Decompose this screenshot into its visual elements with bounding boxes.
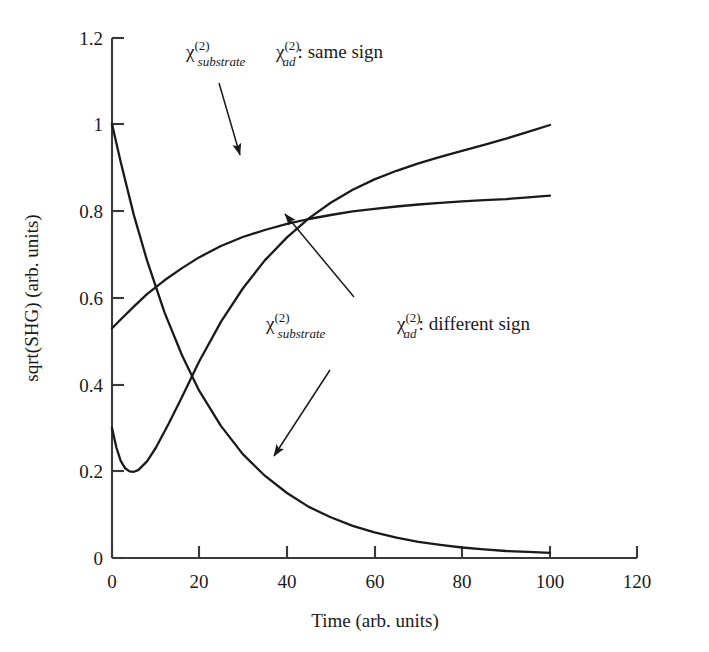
y-tick-label: 0.6 (79, 288, 103, 309)
x-axis-title: Time (arb. units) (311, 610, 439, 632)
x-tick-label: 40 (278, 571, 297, 592)
y-tick-label: 0.4 (79, 375, 103, 396)
x-tick-label: 120 (623, 571, 652, 592)
y-tick-label: 0 (94, 548, 104, 569)
x-tick-label: 60 (366, 571, 385, 592)
y-tick-label: 0.2 (79, 461, 103, 482)
y-tick-label: 1.2 (79, 28, 103, 49)
x-tick-label: 80 (453, 571, 472, 592)
figure-container: 1.2 1 0.8 0.6 0.4 0.2 0 0 20 40 60 80 10… (0, 0, 709, 652)
x-tick-label: 100 (536, 571, 565, 592)
y-tick-label: 0.8 (79, 201, 103, 222)
chart-svg: 1.2 1 0.8 0.6 0.4 0.2 0 0 20 40 60 80 10… (0, 0, 709, 652)
chart-background (0, 0, 709, 652)
x-tick-label: 20 (190, 571, 209, 592)
y-tick-label: 1 (94, 114, 104, 135)
x-tick-label: 0 (107, 571, 117, 592)
y-axis-title: sqrt(SHG) (arb. units) (21, 214, 43, 381)
